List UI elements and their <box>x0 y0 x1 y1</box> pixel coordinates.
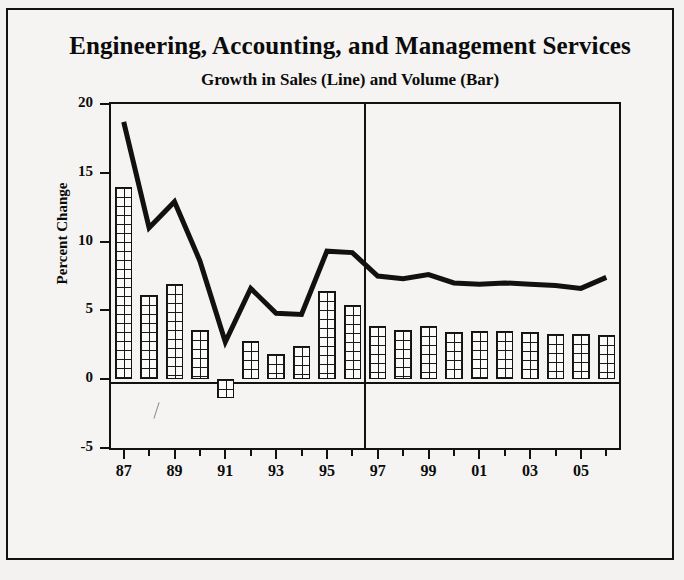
screenshot-page: Engineering, Accounting, and Management … <box>0 0 684 580</box>
x-tick-label: 05 <box>561 462 601 480</box>
x-tick-label: 95 <box>307 462 347 480</box>
sales-growth-line <box>109 102 621 450</box>
y-tick <box>100 309 109 311</box>
y-tick-label: 5 <box>53 300 93 317</box>
x-tick-label: 93 <box>256 462 296 480</box>
chart-frame: Engineering, Accounting, and Management … <box>6 8 674 560</box>
y-tick <box>100 241 109 243</box>
line-path <box>124 122 607 342</box>
y-tick <box>100 378 109 380</box>
y-tick-label: 0 <box>53 369 93 386</box>
plot-area: 20151050-5 87899193959799010305 <box>109 102 621 450</box>
y-tick <box>100 103 109 105</box>
chart-subtitle: Growth in Sales (Line) and Volume (Bar) <box>8 70 684 90</box>
x-tick-label: 97 <box>358 462 398 480</box>
x-tick-label: 99 <box>409 462 449 480</box>
x-tick-label: 89 <box>155 462 195 480</box>
y-tick <box>100 447 109 449</box>
y-tick-label: -5 <box>53 438 93 455</box>
x-tick-label: 91 <box>205 462 245 480</box>
x-tick-label: 03 <box>510 462 550 480</box>
x-tick-label: 87 <box>104 462 144 480</box>
y-tick-label: 15 <box>53 163 93 180</box>
y-tick <box>100 172 109 174</box>
y-tick-label: 10 <box>53 232 93 249</box>
chart-title: Engineering, Accounting, and Management … <box>8 32 684 60</box>
y-tick-label: 20 <box>53 94 93 111</box>
x-tick-label: 01 <box>459 462 499 480</box>
line-series <box>109 102 621 450</box>
